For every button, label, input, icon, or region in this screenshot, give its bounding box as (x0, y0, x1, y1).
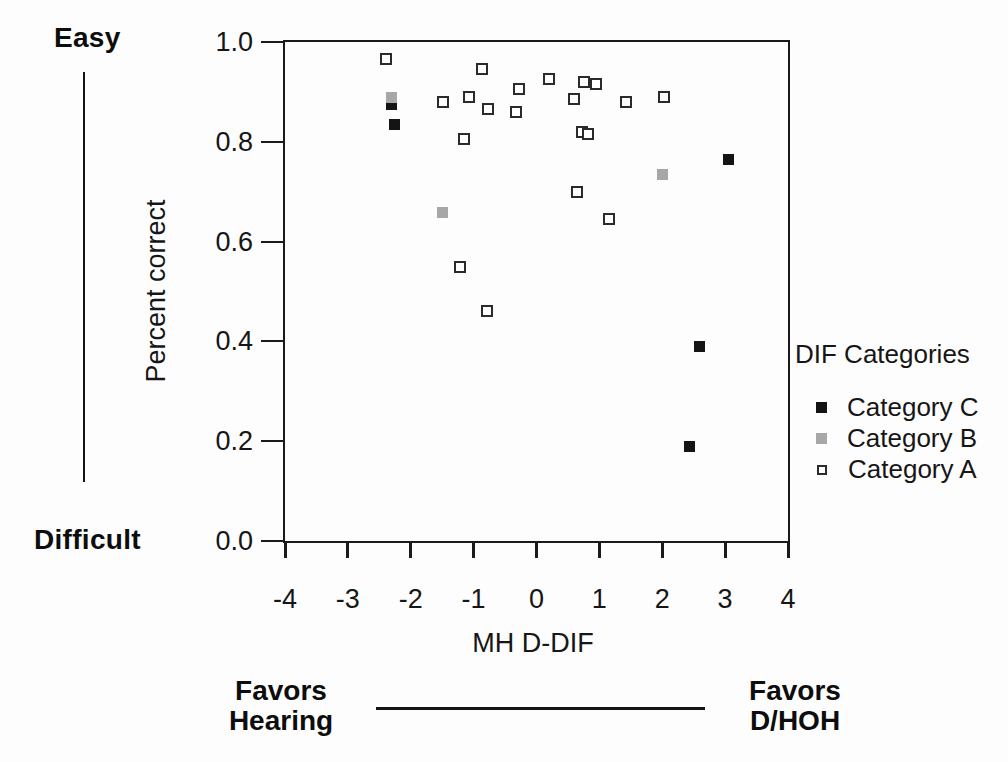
y-tick (261, 241, 283, 243)
data-point-category-a (481, 305, 493, 317)
data-point-category-a (463, 91, 475, 103)
y-axis-title: Percent correct (139, 161, 173, 421)
data-point-category-b (437, 207, 448, 218)
plot-area: 1.00.80.60.40.20.0-4-3-2-101234 (283, 40, 790, 543)
legend-label: Category C (847, 392, 979, 423)
x-tick (346, 543, 349, 558)
x-tick-label: 1 (569, 584, 629, 615)
favors-dhoh-label: Favors D/HOH (695, 676, 895, 736)
y-tick (261, 340, 283, 342)
legend-title: DIF Categories (795, 339, 970, 370)
easy-label: Easy (54, 22, 121, 54)
data-point-category-c (723, 154, 734, 165)
x-tick (598, 543, 601, 558)
favors-hearing-line2: Hearing (181, 706, 381, 736)
y-tick (261, 141, 283, 143)
data-point-category-a (571, 186, 583, 198)
legend-row-category-c: Category C (810, 392, 979, 423)
data-point-category-a (513, 83, 525, 95)
legend-row-category-b: Category B (810, 423, 979, 454)
data-point-category-a (380, 53, 392, 65)
favors-hearing-line1: Favors (181, 676, 381, 706)
data-point-category-a (482, 103, 494, 115)
data-point-category-a (658, 91, 670, 103)
x-tick (787, 543, 790, 558)
data-point-category-a (437, 96, 449, 108)
favors-hearing-label: Favors Hearing (181, 676, 381, 736)
x-tick (724, 543, 727, 558)
legend-marker-category-c-icon (816, 402, 827, 413)
x-tick-label: 4 (758, 584, 818, 615)
legend-marker-category-b-icon (816, 433, 827, 444)
legend-label: Category B (847, 423, 977, 454)
favors-dhoh-line1: Favors (695, 676, 895, 706)
figure: Easy Difficult Percent correct 1.00.80.6… (0, 0, 1008, 762)
x-tick (472, 543, 475, 558)
x-tick (409, 543, 412, 558)
data-point-category-a (603, 213, 615, 225)
data-point-category-a (454, 261, 466, 273)
legend-row-category-a: Category A (810, 454, 979, 485)
x-tick (535, 543, 538, 558)
y-tick (261, 440, 283, 442)
data-point-category-a (543, 73, 555, 85)
legend-label: Category A (848, 454, 977, 485)
data-point-category-a (620, 96, 632, 108)
x-tick-label: -1 (444, 584, 504, 615)
favors-dhoh-line2: D/HOH (695, 706, 895, 736)
y-tick (261, 540, 283, 542)
data-point-category-a (458, 133, 470, 145)
difficult-label: Difficult (34, 524, 141, 556)
data-point-category-c (389, 119, 400, 130)
data-point-category-a (590, 78, 602, 90)
x-tick (284, 543, 287, 558)
y-tick (261, 41, 283, 43)
x-tick-label: -4 (255, 584, 315, 615)
y-tick-label: 0.6 (195, 227, 253, 258)
data-point-category-b (386, 92, 397, 103)
difficulty-axis-guide-line (83, 72, 85, 482)
y-tick-label: 0.4 (195, 326, 253, 357)
data-point-category-a (578, 76, 590, 88)
x-tick (661, 543, 664, 558)
x-tick-label: 0 (507, 584, 567, 615)
x-tick-label: -3 (318, 584, 378, 615)
y-tick-label: 0.0 (195, 526, 253, 557)
data-point-category-c (684, 441, 695, 452)
y-tick-label: 1.0 (195, 27, 253, 58)
legend-items: Category CCategory BCategory A (810, 392, 979, 485)
x-axis-title: MH D-DIF (433, 628, 633, 659)
data-point-category-a (568, 93, 580, 105)
data-point-category-b (657, 169, 668, 180)
x-tick-label: 3 (695, 584, 755, 615)
legend-marker-category-a-icon (817, 465, 827, 475)
data-point-category-c (694, 341, 705, 352)
x-tick-label: 2 (632, 584, 692, 615)
data-point-category-a (476, 63, 488, 75)
x-tick-label: -2 (381, 584, 441, 615)
data-point-category-a (510, 106, 522, 118)
y-tick-label: 0.2 (195, 426, 253, 457)
favors-direction-line (376, 707, 705, 710)
y-tick-label: 0.8 (195, 127, 253, 158)
data-point-category-a (582, 128, 594, 140)
